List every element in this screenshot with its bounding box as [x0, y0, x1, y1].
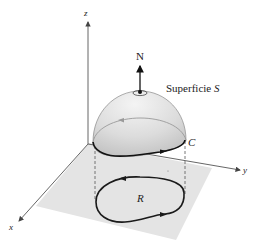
surface-symbol: S: [214, 82, 220, 94]
y-axis-label: y: [243, 166, 247, 175]
normal-label: N: [136, 51, 144, 62]
plane-dot: [167, 170, 168, 171]
diagram-canvas: [0, 0, 264, 247]
x-axis-label: x: [9, 223, 13, 232]
surface-s-dome: [93, 91, 186, 157]
z-axis-label: z: [84, 9, 88, 18]
xy-plane: [36, 143, 212, 240]
curve-label: C: [188, 137, 195, 148]
region-label: R: [137, 193, 144, 204]
surface-label: Superficie S: [166, 83, 219, 94]
